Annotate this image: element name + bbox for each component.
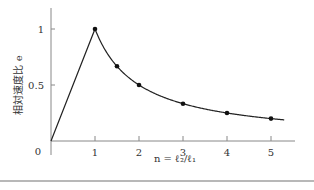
y-tick-label: 0.5 [28,80,44,91]
data-point [137,83,142,88]
data-line [51,29,284,141]
y-tick-label: 1 [38,24,44,35]
bottom-divider [0,180,314,182]
chart-canvas: 00.51 12345 n = ℓ₂/ℓ₁ 相対速度比 e [0,0,314,180]
x-axis-label: n = ℓ₂/ℓ₁ [154,153,196,164]
x-tick-label: 2 [136,147,142,158]
axes [51,8,295,155]
x-tick-label: 1 [92,147,98,158]
data-point [181,101,186,106]
x-tick-label: 5 [268,147,274,158]
x-tick-label: 4 [224,147,230,158]
data-point [93,27,98,32]
y-tick-label: 0 [35,146,41,157]
data-point [269,116,274,121]
data-markers [93,27,274,121]
y-axis-label: 相対速度比 e [12,55,24,114]
data-point [225,111,230,116]
data-point [115,64,120,69]
